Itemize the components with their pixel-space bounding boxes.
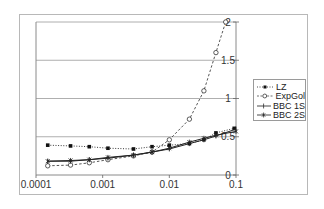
open-circle-marker-icon bbox=[223, 20, 227, 24]
legend-label: ExpGol bbox=[275, 91, 305, 101]
open-circle-marker-icon bbox=[257, 92, 273, 100]
legend-label: BBC 1S bbox=[273, 101, 305, 111]
legend-item-bbc-2s: BBC 2S bbox=[257, 111, 305, 121]
legend-item-lz: LZ bbox=[257, 82, 305, 92]
gridlines bbox=[36, 22, 236, 137]
filled-square-marker-icon bbox=[87, 145, 91, 149]
legend: LZ ExpGol BBC 1S BBC 2S bbox=[253, 79, 306, 121]
open-circle-marker-icon bbox=[202, 89, 206, 93]
open-circle-marker-icon bbox=[214, 50, 218, 54]
x-tick-label: 0.001 bbox=[90, 179, 115, 190]
filled-square-marker-icon bbox=[46, 143, 50, 147]
legend-item-bbc-1s: BBC 1S bbox=[257, 101, 305, 111]
y-tick-label: 1.5 bbox=[221, 55, 235, 66]
asterisk-marker-icon bbox=[257, 111, 271, 119]
series-line bbox=[48, 129, 236, 161]
filled-square-marker-icon bbox=[69, 144, 73, 148]
x-tick-label: 0.01 bbox=[160, 179, 180, 190]
filled-square-marker-icon bbox=[150, 145, 154, 149]
series-line bbox=[48, 131, 236, 161]
filled-square-marker-icon bbox=[132, 147, 136, 151]
legend-label: BBC 2S bbox=[273, 110, 305, 120]
filled-square-marker-icon bbox=[257, 83, 274, 91]
series-layer bbox=[46, 20, 238, 168]
legend-label: LZ bbox=[276, 82, 287, 92]
open-circle-marker-icon bbox=[167, 138, 171, 142]
open-circle-marker-icon bbox=[187, 117, 191, 121]
x-tick-label: 0.0001 bbox=[21, 179, 52, 190]
open-circle-marker-icon bbox=[46, 164, 50, 168]
series-bbc-1s bbox=[48, 127, 236, 164]
series-line bbox=[48, 22, 226, 166]
legend-item-expgol: ExpGol bbox=[257, 92, 305, 102]
series-expgol bbox=[46, 20, 228, 168]
x-tick-label: 0.1 bbox=[229, 179, 243, 190]
plus-marker-icon bbox=[257, 102, 271, 110]
filled-square-marker-icon bbox=[106, 146, 110, 150]
tick-labels: 00.511.520.00010.0010.010.1 bbox=[21, 17, 244, 191]
y-tick-label: 1 bbox=[225, 93, 231, 104]
